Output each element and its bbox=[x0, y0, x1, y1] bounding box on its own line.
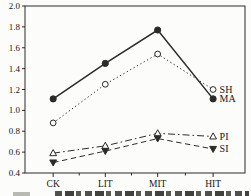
y-axis-tick-label: 1.4 bbox=[9, 64, 21, 74]
x-axis-category-label: LIT bbox=[98, 179, 113, 189]
series-end-label-MA: MA bbox=[220, 93, 237, 104]
marker-filled-triangle-down bbox=[210, 146, 217, 152]
y-axis-tick-label: 1.8 bbox=[9, 22, 21, 32]
x-axis-category-label: HIT bbox=[205, 179, 221, 189]
y-axis-tick-label: 0.4 bbox=[9, 168, 21, 178]
series-line-PI bbox=[53, 133, 213, 153]
marker-filled-circle bbox=[155, 27, 161, 33]
marker-open-circle bbox=[50, 120, 56, 126]
y-axis-tick-label: 1.6 bbox=[9, 43, 21, 53]
y-axis-tick-label: 0.8 bbox=[9, 126, 21, 136]
caption-text-fragment bbox=[55, 191, 249, 196]
caption-cropped-text bbox=[0, 190, 251, 196]
x-axis-category-label: CK bbox=[47, 179, 60, 189]
x-axis-category-label: MIT bbox=[149, 179, 167, 189]
y-axis-tick-label: 0.6 bbox=[9, 147, 21, 157]
caption-figure-number-fragment bbox=[13, 192, 30, 196]
series-end-label-SI: SI bbox=[220, 143, 229, 154]
y-axis-tick-label: 2.0 bbox=[9, 1, 21, 11]
marker-filled-circle bbox=[50, 96, 56, 102]
series-line-MA bbox=[53, 30, 213, 99]
y-axis-tick-label: 1.0 bbox=[9, 105, 21, 115]
marker-filled-circle bbox=[210, 96, 216, 102]
marker-filled-triangle-down bbox=[50, 160, 57, 166]
marker-open-circle bbox=[210, 87, 216, 93]
series-end-label-PI: PI bbox=[220, 131, 229, 142]
marker-open-circle bbox=[102, 81, 108, 87]
series-line-SI bbox=[53, 139, 213, 163]
marker-filled-triangle-down bbox=[102, 148, 109, 154]
marker-filled-circle bbox=[102, 60, 108, 66]
marker-open-triangle-up bbox=[210, 133, 217, 139]
figure: 0.40.60.81.01.21.41.61.82.0CKLITMITHITSH… bbox=[0, 0, 251, 196]
marker-open-triangle-up bbox=[154, 130, 161, 136]
line-chart: 0.40.60.81.01.21.41.61.82.0CKLITMITHITSH… bbox=[0, 0, 251, 190]
series-line-SH bbox=[53, 54, 213, 123]
marker-open-circle bbox=[155, 51, 161, 57]
y-axis-tick-label: 1.2 bbox=[9, 85, 20, 95]
